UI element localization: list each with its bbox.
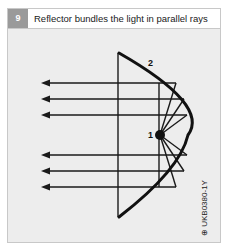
label-bulb: 1: [148, 130, 153, 140]
label-reflector: 2: [148, 58, 153, 68]
bulb-icon: [155, 130, 165, 140]
arrowheads: [41, 80, 50, 191]
image-code: ⊕ UKB0380-1Y: [200, 180, 209, 236]
reflector-diagram: 1 2: [0, 0, 225, 248]
